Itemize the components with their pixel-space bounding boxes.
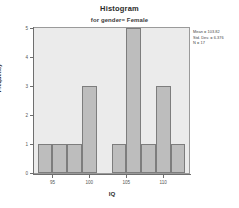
y-axis-title: Frequency bbox=[0, 64, 2, 92]
y-axis-tick-label: 4 bbox=[25, 55, 28, 60]
y-axis-tick-label: 0 bbox=[25, 171, 28, 176]
y-axis-tick-label: 2 bbox=[25, 113, 28, 118]
x-axis-title: IQ bbox=[33, 190, 191, 197]
y-axis-tick bbox=[30, 86, 33, 87]
histogram-bar bbox=[52, 144, 67, 173]
plot-area bbox=[33, 27, 190, 174]
histogram-bar bbox=[82, 86, 97, 173]
x-axis-tick bbox=[52, 175, 53, 178]
x-axis: 95100105110 bbox=[33, 175, 191, 189]
histogram-bar bbox=[112, 144, 127, 173]
x-axis-tick bbox=[89, 175, 90, 178]
y-axis: 012345 bbox=[0, 27, 33, 175]
chart-title: Histogram bbox=[0, 4, 239, 13]
x-axis-tick-label: 95 bbox=[50, 180, 55, 185]
y-axis-tick bbox=[30, 144, 33, 145]
histogram-chart: Histogram for gender= Female 012345 9510… bbox=[0, 0, 239, 208]
x-axis-tick-label: 110 bbox=[159, 180, 166, 185]
y-axis-tick bbox=[30, 28, 33, 29]
y-axis-line bbox=[33, 27, 34, 175]
x-axis-tick bbox=[126, 175, 127, 178]
histogram-bar bbox=[141, 144, 156, 173]
y-axis-tick bbox=[30, 115, 33, 116]
histogram-bar bbox=[126, 28, 141, 173]
mean-label: Mean = 103.82 bbox=[193, 29, 224, 35]
histogram-bar bbox=[67, 144, 82, 173]
statistics-annotation: Mean = 103.82 Std. Dev. = 6.376 N = 17 bbox=[193, 29, 224, 46]
histogram-bar bbox=[171, 144, 186, 173]
histogram-bar bbox=[156, 86, 171, 173]
histogram-bar bbox=[38, 144, 53, 173]
sample-size-label: N = 17 bbox=[193, 40, 224, 46]
y-axis-tick-label: 1 bbox=[25, 142, 28, 147]
y-axis-tick-label: 5 bbox=[25, 26, 28, 31]
x-axis-tick-label: 105 bbox=[122, 180, 130, 185]
chart-subtitle: for gender= Female bbox=[0, 17, 239, 23]
x-axis-tick bbox=[163, 175, 164, 178]
y-axis-tick bbox=[30, 57, 33, 58]
x-axis-tick-label: 100 bbox=[86, 180, 94, 185]
y-axis-tick bbox=[30, 173, 33, 174]
y-axis-tick-label: 3 bbox=[25, 84, 28, 89]
bar-series bbox=[34, 28, 189, 173]
